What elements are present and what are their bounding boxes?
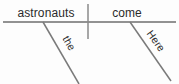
- verb-word-label: come: [112, 6, 142, 20]
- sentence-diagram-canvas: astronauts come the Here: [0, 0, 179, 84]
- subject-word-label: astronauts: [17, 6, 74, 20]
- sentence-diagram-svg: astronauts come the Here: [0, 0, 179, 84]
